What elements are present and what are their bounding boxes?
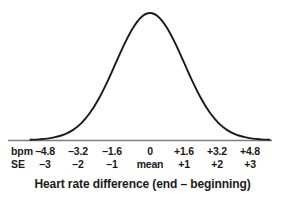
normal-distribution-figure: bpm –4.8 –3.2 –1.6 0 +1.6 +3.2 +4.8 SE –…	[0, 0, 285, 199]
x-axis-caption: Heart rate difference (end – beginning)	[0, 177, 285, 191]
se-tick-6: +3	[230, 158, 270, 171]
normal-curve-svg	[0, 0, 285, 145]
bell-curve-path	[30, 13, 269, 140]
chart-plot-area	[0, 0, 285, 145]
bpm-tick-2: –1.6	[92, 145, 132, 158]
row-label-se: SE	[11, 158, 25, 171]
tick-row-se: SE –3 –2 –1 mean +1 +2 +3	[0, 158, 285, 171]
tick-label-rows: bpm –4.8 –3.2 –1.6 0 +1.6 +3.2 +4.8 SE –…	[0, 145, 285, 171]
se-tick-2: –1	[92, 158, 132, 171]
bpm-tick-6: +4.8	[230, 145, 270, 158]
tick-row-bpm: bpm –4.8 –3.2 –1.6 0 +1.6 +3.2 +4.8	[0, 145, 285, 158]
